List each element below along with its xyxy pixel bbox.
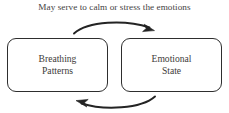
node-emotional-state[interactable]: Emotional State	[121, 38, 222, 92]
diagram-caption: May serve to calm or stress the emotions	[0, 2, 229, 13]
arrow-bottom-right-to-left	[76, 97, 155, 108]
diagram-canvas: May serve to calm or stress the emotions…	[0, 0, 229, 113]
node-breathing-patterns[interactable]: Breathing Patterns	[7, 38, 108, 92]
arrow-bottom-curve	[82, 97, 156, 108]
arrow-top-head-icon	[143, 24, 155, 31]
arrow-bottom-head-icon	[76, 99, 88, 107]
node-emotional-state-line2: State	[162, 65, 181, 77]
node-breathing-patterns-line2: Patterns	[42, 65, 73, 77]
node-breathing-patterns-line1: Breathing	[39, 53, 77, 65]
arrow-top-left-to-right	[74, 23, 155, 34]
arrow-top-curve	[74, 23, 150, 34]
node-emotional-state-line1: Emotional	[152, 53, 192, 65]
